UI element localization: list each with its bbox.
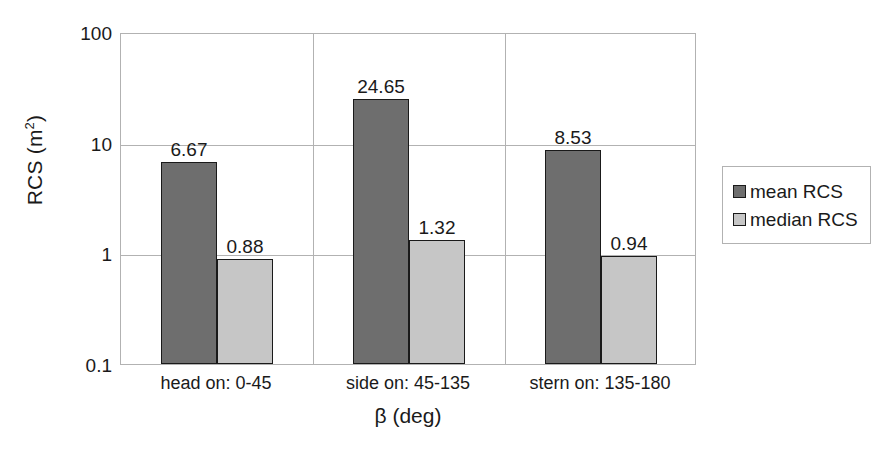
y-tick-label: 1 <box>56 245 112 264</box>
bar-value-label: 1.32 <box>395 218 479 237</box>
plot-area: 6.670.8824.651.328.530.94 <box>120 33 696 365</box>
y-axis-title-superscript: 2 <box>22 122 37 129</box>
bar-value-label: 6.67 <box>147 140 231 159</box>
bar-value-label: 0.88 <box>203 237 287 256</box>
bar <box>217 259 273 364</box>
rcs-bar-chart: RCS (m2) 1001010.1 6.670.8824.651.328.53… <box>0 0 895 459</box>
legend-item-label: median RCS <box>750 210 858 229</box>
legend-swatch-icon <box>733 185 746 198</box>
legend-item: median RCS <box>733 205 858 233</box>
legend-item-label: mean RCS <box>750 182 843 201</box>
y-axis-title: RCS (m2) <box>23 80 47 240</box>
x-tick-label: side on: 45-135 <box>312 374 504 394</box>
bar <box>601 256 657 364</box>
x-tick-label: head on: 0-45 <box>120 374 312 394</box>
legend: mean RCSmedian RCS <box>722 166 871 244</box>
bar <box>545 150 601 364</box>
bar <box>161 162 217 364</box>
y-axis-title-tail: ) <box>23 115 46 122</box>
y-axis-title-text: RCS (m <box>23 129 46 205</box>
bar-group: 6.670.88 <box>121 34 313 364</box>
y-tick-label: 10 <box>56 134 112 153</box>
y-tick-label: 100 <box>56 24 112 43</box>
bar-group: 8.530.94 <box>505 34 697 364</box>
bar <box>409 240 465 364</box>
bar-group: 24.651.32 <box>313 34 505 364</box>
legend-swatch-icon <box>733 213 746 226</box>
bar-value-label: 24.65 <box>339 77 423 96</box>
bar-value-label: 8.53 <box>531 128 615 147</box>
y-axis-tick-labels: 1001010.1 <box>54 0 112 459</box>
x-tick-label: stern on: 135-180 <box>504 374 696 394</box>
x-axis-title: β (deg) <box>120 404 696 428</box>
bar-value-label: 0.94 <box>587 234 671 253</box>
legend-item: mean RCS <box>733 177 858 205</box>
y-tick-label: 0.1 <box>56 356 112 375</box>
